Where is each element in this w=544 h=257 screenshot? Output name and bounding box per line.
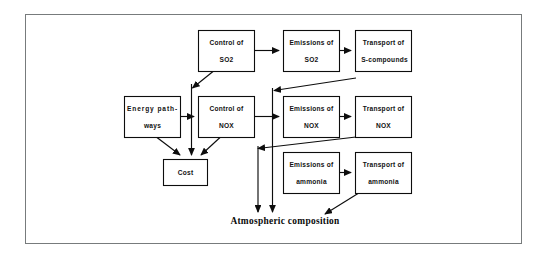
node-emissions-of-nox-line1: Emissions of xyxy=(289,105,334,112)
node-transport-of-s-compounds[interactable]: Transport of S-compounds xyxy=(356,31,412,72)
node-transport-of-s-compounds-line1: Transport of xyxy=(363,39,405,47)
node-control-of-so2-line1: Control of xyxy=(210,39,245,46)
edge-control-nox-to-cost xyxy=(201,138,220,156)
node-emissions-of-so2[interactable]: Emissions of SO2 xyxy=(284,31,340,72)
node-transport-of-ammonia[interactable]: Transport of ammonia xyxy=(356,153,412,194)
node-cost[interactable]: Cost xyxy=(164,160,208,186)
node-emissions-of-so2-line2: SO2 xyxy=(305,56,319,63)
node-control-of-nox[interactable]: Control of NOX xyxy=(199,97,255,138)
flowchart-diagram: Control of SO2 Emissions of SO2 Transpor… xyxy=(0,0,544,257)
node-transport-of-ammonia-line2: ammonia xyxy=(368,178,399,185)
node-emissions-of-ammonia-line2: ammonia xyxy=(296,178,327,185)
node-emissions-of-so2-line1: Emissions of xyxy=(289,39,334,46)
node-transport-of-nox-line2: NOX xyxy=(376,122,391,129)
node-emissions-of-nox[interactable]: Emissions of NOX xyxy=(284,97,340,138)
edge-control-so2-diagonal xyxy=(193,72,214,89)
node-transport-of-nox-line1: Transport of xyxy=(363,105,405,113)
node-transport-of-ammonia-line1: Transport of xyxy=(363,161,405,169)
node-control-of-so2-line2: SO2 xyxy=(220,56,234,63)
node-transport-of-nox[interactable]: Transport of NOX xyxy=(356,97,412,138)
node-energy-pathways-line2: ways xyxy=(143,122,161,130)
node-emissions-of-nox-line2: NOX xyxy=(304,122,319,129)
node-control-of-nox-line2: NOX xyxy=(219,122,234,129)
figure-canvas: Control of SO2 Emissions of SO2 Transpor… xyxy=(0,0,544,257)
node-emissions-of-ammonia[interactable]: Emissions of ammonia xyxy=(284,153,340,194)
edge-transport-s-to-emissions-nox xyxy=(274,78,356,91)
node-energy-pathways-line1: Energy path- xyxy=(127,105,178,113)
node-energy-pathways[interactable]: Energy path- ways xyxy=(125,97,181,138)
node-control-of-so2[interactable]: Control of SO2 xyxy=(199,31,255,72)
node-control-of-nox-line1: Control of xyxy=(210,105,245,112)
edge-transport-nh3-to-atmosphere xyxy=(325,194,358,215)
node-emissions-of-ammonia-line1: Emissions of xyxy=(289,161,334,168)
atmospheric-composition-label: Atmospheric composition xyxy=(230,216,340,226)
node-cost-label: Cost xyxy=(178,169,194,176)
edge-energy-to-cost xyxy=(157,138,180,156)
node-transport-of-s-compounds-line2: S-compounds xyxy=(361,56,408,64)
